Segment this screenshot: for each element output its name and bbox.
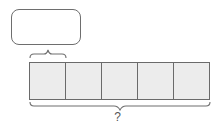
tape-cell bbox=[102, 63, 138, 99]
unit-brace bbox=[28, 48, 68, 60]
tape-cell bbox=[174, 63, 209, 99]
tape-cell bbox=[30, 63, 66, 99]
unit-value-box bbox=[11, 9, 81, 45]
tape-cell bbox=[66, 63, 102, 99]
tape-strip bbox=[29, 62, 210, 100]
tape-cell bbox=[138, 63, 174, 99]
total-unknown-label: ? bbox=[0, 110, 221, 124]
